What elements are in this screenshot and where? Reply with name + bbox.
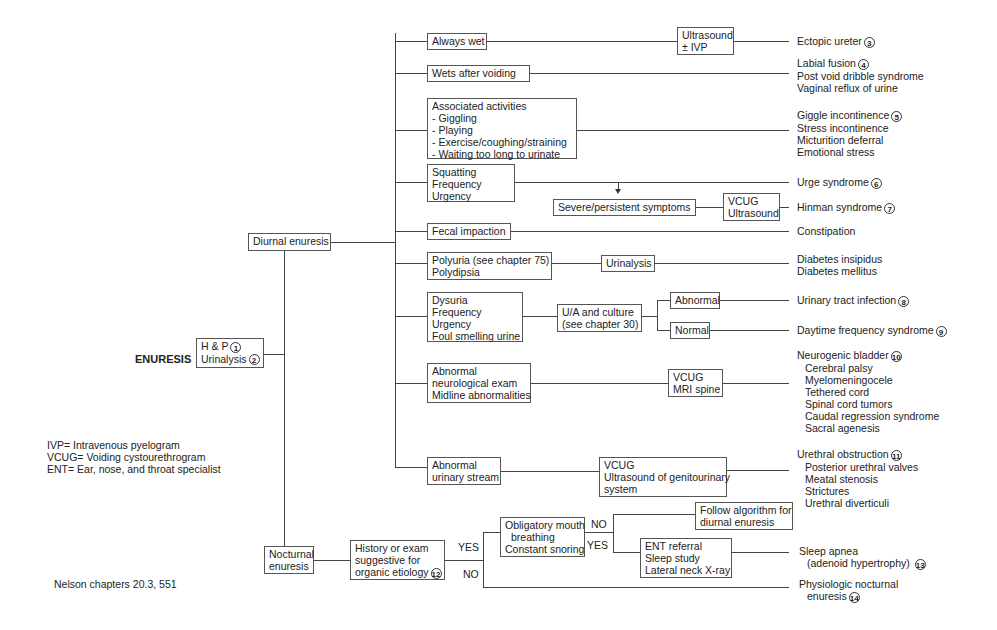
connector — [710, 330, 789, 331]
ref-number: 9 — [936, 326, 947, 337]
ref-number: 14 — [849, 592, 860, 603]
outcome-ectopic-ureter: Ectopic ureter3 — [797, 35, 875, 48]
outcome-hinman: Hinman syndrome7 — [797, 201, 895, 214]
urinalysis-box: Urinalysis — [601, 255, 655, 272]
connector — [483, 532, 500, 533]
history-exam-box: History or exam suggestive for organic e… — [350, 540, 445, 580]
yes-label: YES — [458, 541, 479, 553]
ref-number: 3 — [864, 37, 875, 48]
connector — [483, 532, 484, 587]
outcome-physiologic: Physiologic nocturnal enuresis14 — [799, 578, 898, 603]
outcome-activities: Giggle incontinence5 Stress incontinence… — [797, 109, 902, 158]
outcome-constipation: Constipation — [797, 225, 855, 237]
connector — [657, 300, 670, 301]
diurnal-box: Diurnal enuresis — [248, 233, 331, 251]
connector — [723, 383, 789, 384]
obligatory-breathing-box: Obligatory mouth breathing Constant snor… — [500, 517, 585, 557]
ref-number: 10 — [891, 351, 902, 362]
urinary-stream-box: Abnormal urinary stream — [427, 457, 501, 485]
root-line1: H & P — [201, 340, 228, 352]
connector — [780, 207, 789, 208]
reference-note: Nelson chapters 20.3, 551 — [54, 578, 177, 590]
ref-number: 7 — [884, 203, 895, 214]
test-line: ± IVP — [682, 41, 729, 53]
connector — [395, 41, 427, 42]
connector — [531, 383, 668, 384]
ref-number: 13 — [915, 559, 926, 570]
connector — [727, 470, 789, 471]
root-line2: Urinalysis — [201, 353, 247, 365]
connector — [501, 471, 599, 472]
connector — [613, 552, 640, 553]
ref-number: 2 — [249, 354, 260, 365]
associated-activities-box: Associated activities - Giggling - Playi… — [427, 98, 577, 159]
ref-number: 4 — [858, 59, 869, 70]
connector — [530, 73, 789, 74]
connector — [284, 251, 285, 546]
connector — [395, 33, 396, 467]
connector — [395, 182, 427, 183]
connector — [395, 467, 427, 468]
nocturnal-box: Nocturnal enuresis — [264, 546, 314, 574]
ref-number: 6 — [871, 178, 882, 189]
outcome-sleep-apnea: Sleep apnea (adenoid hypertrophy) 13 — [799, 545, 926, 570]
connector — [577, 130, 789, 131]
connector — [613, 514, 614, 552]
outcome-urge-syndrome: Urge syndrome6 — [797, 176, 882, 189]
test-line: Ultrasound — [682, 29, 729, 41]
ua-culture-box: U/A and culture (see chapter 30) — [557, 304, 642, 332]
connector — [732, 552, 789, 553]
connector — [720, 300, 789, 301]
connector — [657, 330, 670, 331]
connector — [331, 242, 395, 243]
connector — [487, 41, 677, 42]
connector — [585, 532, 613, 533]
outcome-neurogenic-bladder: Neurogenic bladder10 Cerebral palsy Myel… — [797, 349, 939, 434]
connector — [657, 300, 658, 330]
connector — [552, 263, 601, 264]
abbreviation-legend: IVP= Intravenous pyelogram VCUG= Voiding… — [47, 439, 221, 475]
vcug-mri-box: VCUG MRI spine — [668, 369, 723, 397]
ref-number: 12 — [431, 568, 442, 579]
outcome-diabetes: Diabetes insipidus Diabetes mellitus — [797, 253, 882, 277]
ref-number: 8 — [898, 296, 909, 307]
neuro-exam-box: Abnormal neurological exam Midline abnor… — [427, 363, 531, 403]
vcug-ultrasound-box: VCUG Ultrasound — [723, 193, 780, 221]
ent-referral-box: ENT referral Sleep study Lateral neck X-… — [640, 538, 732, 578]
connector — [395, 231, 427, 232]
outcome-daytime-frequency: Daytime frequency syndrome9 — [797, 324, 947, 337]
connector — [613, 514, 695, 515]
connector — [483, 587, 789, 588]
ref-number: 11 — [891, 450, 902, 461]
no-label-2: NO — [591, 518, 607, 530]
always-wet-box: Always wet — [427, 33, 487, 50]
connector — [523, 316, 557, 317]
connector — [696, 207, 723, 208]
root-box: H & P1 Urinalysis2 — [196, 338, 264, 368]
connector — [515, 182, 789, 183]
severe-symptoms-box: Severe/persistent symptoms — [553, 199, 696, 216]
ref-number: 5 — [891, 111, 902, 122]
arrow-down-icon — [615, 189, 621, 194]
connector — [445, 560, 483, 561]
outcome-urethral-obstruction: Urethral obstruction11 Posterior urethra… — [797, 448, 918, 509]
ultrasound-ivp-box: Ultrasound ± IVP — [677, 27, 734, 55]
connector — [734, 41, 789, 42]
connector — [314, 560, 350, 561]
connector — [395, 130, 427, 131]
yes-label-2: YES — [587, 539, 608, 551]
polyuria-box: Polyuria (see chapter 75) Polydipsia — [427, 252, 552, 280]
ref-number: 1 — [230, 342, 241, 353]
connector — [264, 354, 284, 355]
diagram-title: ENURESIS — [135, 353, 191, 365]
fecal-impaction-box: Fecal impaction — [427, 223, 511, 240]
no-label: NO — [463, 568, 479, 580]
connector — [395, 263, 427, 264]
follow-algorithm-box: Follow algorithm for diurnal enuresis — [695, 502, 793, 530]
connector — [511, 231, 789, 232]
normal-box: Normal — [670, 322, 710, 339]
connector — [655, 263, 789, 264]
vcug-ultrasound-gu-box: VCUG Ultrasound of genitourinary system — [599, 457, 727, 497]
connector — [395, 383, 427, 384]
wets-after-voiding-box: Wets after voiding — [427, 65, 530, 82]
